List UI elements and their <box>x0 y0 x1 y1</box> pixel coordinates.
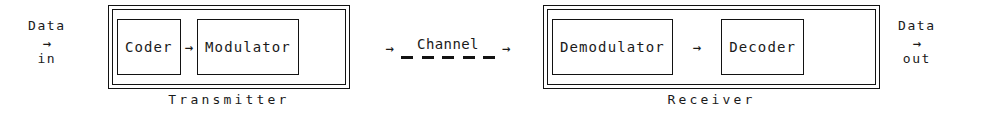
data-in-arrow-icon: → <box>43 35 51 51</box>
coder-block[interactable]: Coder <box>117 19 181 75</box>
decoder-block-label: Decoder <box>729 39 796 55</box>
receiver-box: Demodulator → Decoder <box>543 5 880 89</box>
coder-to-modulator-arrow-icon: → <box>181 40 197 54</box>
receiver-caption: Receiver <box>543 92 880 107</box>
modulator-block-label: Modulator <box>205 39 291 55</box>
decoder-block[interactable]: Decoder <box>721 19 804 75</box>
channel-input-arrow-icon: → <box>386 41 394 55</box>
demodulator-block[interactable]: Demodulator <box>552 19 673 75</box>
demodulator-block-label: Demodulator <box>560 39 665 55</box>
data-in-terminal: Data → in <box>28 18 66 67</box>
data-out-terminal: Data → out <box>898 18 936 67</box>
modulator-block[interactable]: Modulator <box>197 19 299 75</box>
coder-block-label: Coder <box>125 39 173 55</box>
data-in-label-top: Data <box>28 18 66 35</box>
data-out-label-bottom: out <box>903 51 931 68</box>
channel-medium: Channel <box>394 37 502 58</box>
receiver-body: Demodulator → Decoder <box>552 14 871 80</box>
channel-label: Channel <box>417 37 479 52</box>
channel-output-arrow-icon: → <box>502 41 510 55</box>
data-out-arrow-icon: → <box>913 35 921 51</box>
data-out-label-top: Data <box>898 18 936 35</box>
channel-dashed-line-icon <box>401 56 495 59</box>
channel-group: → Channel → <box>355 27 541 69</box>
data-in-label-bottom: in <box>37 51 56 68</box>
demodulator-to-decoder-arrow-icon: → <box>673 40 721 54</box>
transmitter-caption: Transmitter <box>108 92 350 107</box>
transmitter-box: Coder → Modulator <box>108 5 350 89</box>
transmitter-body: Coder → Modulator <box>117 14 341 80</box>
